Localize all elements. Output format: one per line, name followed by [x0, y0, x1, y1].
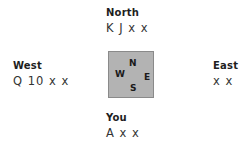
compass-north: N: [129, 58, 137, 68]
compass-east: E: [144, 72, 150, 82]
seat-south: You A x x: [106, 112, 140, 140]
compass-south: S: [130, 83, 136, 93]
compass-table: N W E S: [108, 51, 154, 98]
seat-north: North K J x x: [106, 7, 149, 35]
seat-east-hand: x x: [213, 74, 238, 88]
seat-west-label: West: [13, 60, 69, 72]
seat-north-label: North: [106, 7, 149, 19]
seat-east: East x x: [213, 60, 238, 88]
compass-west: W: [115, 69, 125, 79]
seat-west: West Q 10 x x: [13, 60, 69, 88]
seat-north-hand: K J x x: [106, 21, 149, 35]
seat-west-hand: Q 10 x x: [13, 74, 69, 88]
seat-east-label: East: [213, 60, 238, 72]
seat-south-label: You: [106, 112, 140, 124]
seat-south-hand: A x x: [106, 126, 140, 140]
